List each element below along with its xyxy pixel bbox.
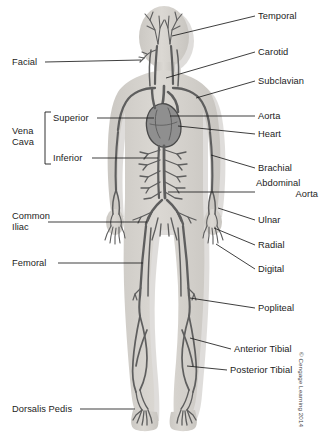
label-vena-cava: Vena Cava — [12, 126, 34, 147]
label-temporal: Temporal — [258, 11, 297, 22]
label-radial: Radial — [258, 240, 285, 251]
label-vena-cava-line2: Cava — [12, 137, 34, 148]
label-ulnar: Ulnar — [258, 215, 280, 226]
label-subclavian: Subclavian — [258, 76, 304, 87]
label-facial: Facial — [12, 57, 37, 68]
label-superior-vena-cava: Superior — [53, 113, 89, 124]
label-inferior-vena-cava: Inferior — [53, 153, 82, 164]
label-aorta: Aorta — [258, 111, 280, 122]
label-abdominal-aorta-line2: Aorta — [256, 189, 318, 200]
copyright-notice: © Cengage Learning 2014 — [298, 352, 305, 427]
label-brachial: Brachial — [258, 163, 292, 174]
circulatory-system-figure: Temporal Carotid Subclavian Aorta Heart … — [0, 0, 320, 442]
label-digital: Digital — [258, 264, 284, 275]
label-common-iliac: Common Iliac — [12, 211, 50, 232]
label-anterior-tibial: Anterior Tibial — [234, 344, 292, 355]
label-abdominal-aorta: Abdominal Aorta — [256, 178, 318, 199]
vena-cava-bracket — [45, 112, 51, 164]
label-abdominal-aorta-line1: Abdominal — [256, 178, 318, 189]
leader-radial — [214, 228, 255, 245]
label-vena-cava-line1: Vena — [12, 126, 34, 137]
label-dorsalis-pedis: Dorsalis Pedis — [12, 404, 72, 415]
label-posterior-tibial: Posterior Tibial — [230, 365, 292, 376]
leader-facial — [45, 60, 141, 62]
label-popliteal: Popliteal — [258, 303, 294, 314]
label-femoral: Femoral — [12, 258, 46, 269]
label-carotid: Carotid — [258, 47, 288, 58]
leader-ulnar — [218, 208, 255, 220]
descending-aorta — [164, 146, 165, 198]
label-heart: Heart — [258, 129, 281, 140]
label-common-iliac-line2: Iliac — [12, 222, 50, 233]
leader-digital — [216, 244, 255, 269]
label-common-iliac-line1: Common — [12, 211, 50, 222]
